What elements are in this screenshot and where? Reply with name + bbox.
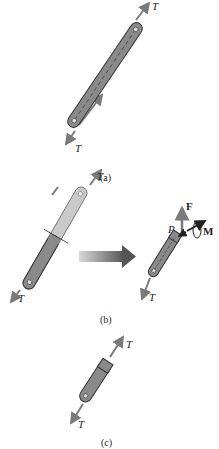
figure-canvas: T T (a) T T T <box>0 0 219 449</box>
label-m: M <box>203 225 214 237</box>
tension-arrow-top <box>136 3 149 20</box>
label-t-top-b: T <box>97 170 104 182</box>
caption-c: (c) <box>101 437 112 449</box>
transition-arrow <box>79 245 136 268</box>
member-a <box>65 20 144 130</box>
tension-arrow-top-c <box>110 337 123 357</box>
label-t-bottom-b-right: T <box>149 291 156 303</box>
label-f: F <box>186 200 193 212</box>
label-t-bottom-c: T <box>78 418 85 430</box>
panel-b: T T T F P M (b) <box>11 170 214 326</box>
tension-arrow-bottom <box>66 131 75 144</box>
panel-c: T T (c) <box>71 337 133 449</box>
member-b-right <box>146 230 182 279</box>
label-t-bottom: T <box>75 142 82 154</box>
arrow-shaft <box>52 187 58 195</box>
label-p: P <box>167 223 175 235</box>
label-t-top: T <box>152 0 159 12</box>
label-t-top-c: T <box>126 338 133 350</box>
member-c <box>77 358 113 404</box>
member-b-left <box>14 181 96 295</box>
caption-b: (b) <box>100 314 112 326</box>
panel-a: T T (a) <box>65 0 159 184</box>
label-t-bottom-b: T <box>18 292 25 304</box>
